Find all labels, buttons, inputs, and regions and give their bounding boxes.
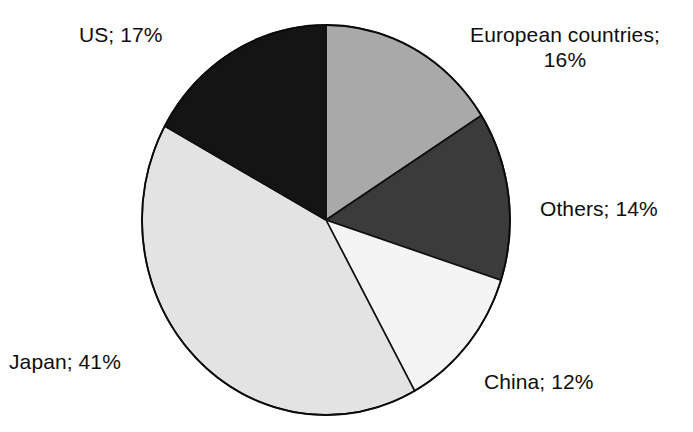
pie-chart: US; 17% European countries; 16% Others; … (0, 0, 693, 432)
pie-slices (142, 25, 510, 415)
pie-label-japan: Japan; 41% (9, 349, 121, 374)
pie-label-european-countries-line1: European countries; (470, 23, 660, 46)
pie-label-us: US; 17% (79, 22, 163, 47)
pie-label-european-countries: European countries; 16% (440, 22, 690, 72)
pie-label-others: Others; 14% (540, 196, 658, 221)
pie-label-china: China; 12% (484, 369, 594, 394)
pie-label-european-countries-line2: 16% (544, 48, 586, 71)
